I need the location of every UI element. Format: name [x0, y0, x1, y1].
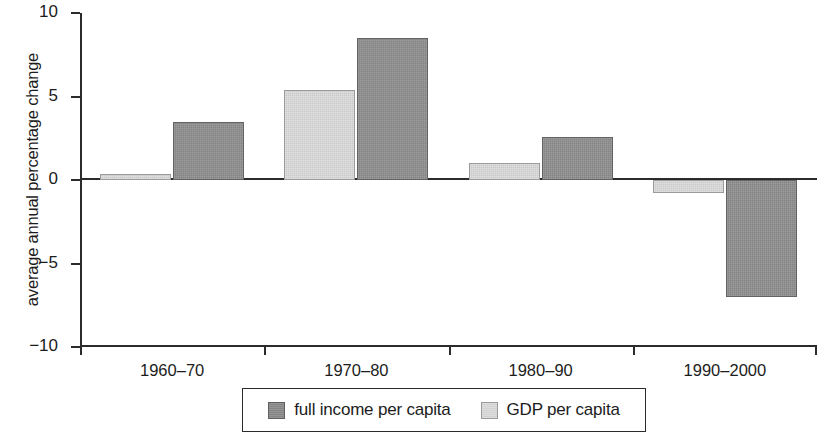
x-axis-tick — [80, 345, 82, 355]
y-axis-tick: 5 — [71, 96, 80, 98]
bar — [100, 174, 171, 180]
light-gray-swatch — [481, 402, 498, 419]
x-axis-tick-label: 1960–70 — [140, 361, 204, 380]
y-axis-tick: 10 — [71, 12, 80, 14]
y-axis-tick: 0 — [71, 179, 80, 181]
x-axis-tick-label: 1980–90 — [509, 361, 573, 380]
x-axis-tick — [264, 345, 266, 355]
legend-entry: GDP per capita — [481, 400, 620, 420]
legend-entry: full income per capita — [268, 400, 450, 420]
chart-legend: full income per capitaGDP per capita — [242, 388, 646, 432]
bar — [653, 180, 724, 193]
y-axis-tick: −5 — [71, 263, 80, 265]
bar — [542, 137, 613, 180]
y-axis-tick-label: −10 — [29, 336, 58, 356]
y-axis-line — [80, 13, 82, 347]
y-axis-tick-label: −5 — [39, 253, 58, 273]
bar — [173, 122, 244, 180]
x-axis-tick — [449, 345, 451, 355]
y-axis-title: average annual percentage change — [23, 15, 42, 345]
y-axis-tick-label: 10 — [39, 2, 58, 22]
y-axis-tick: −10 — [71, 346, 80, 348]
y-axis-tick-label: 0 — [49, 169, 58, 189]
x-axis-tick-label: 1970–80 — [324, 361, 388, 380]
bar — [726, 180, 797, 297]
dark-gray-swatch — [268, 402, 285, 419]
bar — [469, 163, 540, 180]
x-axis-tick — [633, 345, 635, 355]
bar — [284, 90, 355, 180]
y-axis-tick-label: 5 — [49, 86, 58, 106]
legend-label: full income per capita — [294, 400, 450, 420]
bar — [357, 38, 428, 180]
legend-label: GDP per capita — [507, 400, 620, 420]
plot-area: 1050−5−10 1960–701970–801980–901990–2000 — [80, 13, 817, 347]
x-axis-tick-label: 1990–2000 — [684, 361, 767, 380]
